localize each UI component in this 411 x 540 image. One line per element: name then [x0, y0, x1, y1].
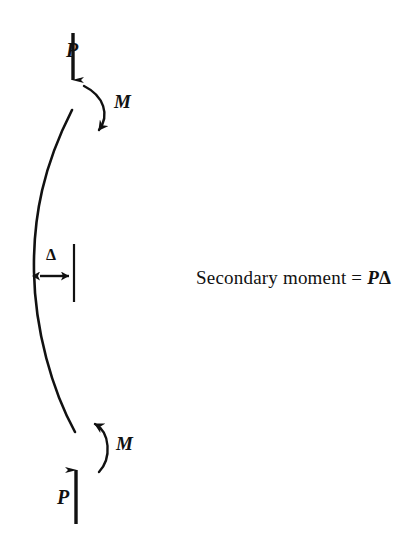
- load-label-bottom: P: [57, 487, 69, 507]
- caption: Secondary moment = PΔ: [196, 268, 391, 287]
- caption-deflection-symbol: Δ: [379, 267, 391, 288]
- moment-arc-bottom: [95, 424, 108, 472]
- caption-prefix: Secondary moment =: [196, 267, 367, 288]
- deflection-label: Δ: [46, 247, 56, 263]
- moment-label-top: M: [114, 92, 131, 111]
- column-curve: [34, 110, 75, 432]
- load-label-top: P: [66, 40, 78, 60]
- figure-canvas: P M Δ M P Secondary moment = PΔ: [0, 0, 411, 540]
- moment-arc-top: [84, 86, 104, 130]
- caption-force-symbol: P: [367, 267, 379, 288]
- moment-label-bottom: M: [116, 434, 133, 453]
